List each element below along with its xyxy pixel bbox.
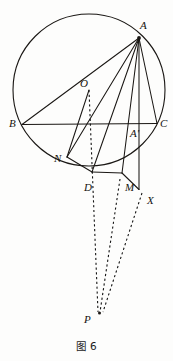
radius-ON	[67, 90, 89, 157]
transversal-ND	[67, 157, 92, 172]
dashed-M-to-P	[100, 179, 120, 312]
point-label-M: M	[125, 182, 134, 193]
cevian-AM	[122, 38, 139, 173]
solid-segments-group	[22, 38, 157, 190]
point-label-B: B	[9, 118, 16, 129]
point-label-N: N	[54, 153, 61, 164]
vertex-dot-P	[98, 312, 101, 315]
point-label-D: D	[84, 182, 92, 193]
point-label-A: A	[140, 20, 147, 31]
dashed-X-to-P	[103, 193, 142, 312]
figure-caption: 图 6	[0, 338, 173, 353]
point-label-X: X	[147, 195, 154, 206]
point-label-Ap: A'	[130, 128, 139, 139]
dashed-OD-extended-to-P	[89, 90, 98, 312]
chord-BC	[22, 124, 157, 125]
point-label-O: O	[80, 78, 88, 89]
point-label-P: P	[84, 314, 91, 325]
transversal-DM	[92, 172, 122, 173]
geometry-figure: ABCOA'NDMXP 图 6	[0, 0, 173, 361]
vertex-dot-A	[137, 36, 141, 40]
point-label-C: C	[160, 118, 167, 129]
